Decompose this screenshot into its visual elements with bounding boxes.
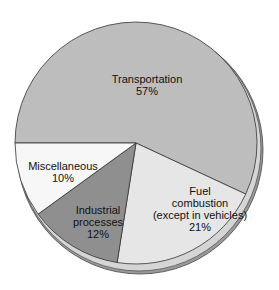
label-miscellaneous: Miscellaneous 10%: [18, 160, 108, 184]
label-industrial-name-2: processes: [58, 216, 138, 228]
label-transportation-value: 57%: [92, 85, 202, 97]
label-fuel-value: 21%: [140, 221, 260, 233]
label-transportation-name: Transportation: [92, 73, 202, 85]
label-fuel-name-2: combustion: [140, 197, 260, 209]
label-misc-value: 10%: [18, 172, 108, 184]
label-fuel-combustion: Fuel combustion (except in vehicles) 21%: [140, 185, 260, 233]
label-industrial-processes: Industrial processes 12%: [58, 204, 138, 240]
label-transportation: Transportation 57%: [92, 73, 202, 97]
label-fuel-name-3: (except in vehicles): [140, 209, 260, 221]
label-industrial-value: 12%: [58, 228, 138, 240]
label-industrial-name-1: Industrial: [58, 204, 138, 216]
label-misc-name: Miscellaneous: [18, 160, 108, 172]
label-fuel-name-1: Fuel: [140, 185, 260, 197]
pie-chart: [0, 0, 279, 290]
